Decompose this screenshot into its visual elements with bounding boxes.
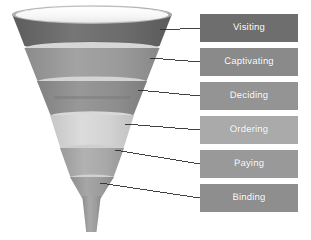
leader-line-captivating	[150, 58, 200, 62]
funnel-band-paying	[60, 148, 124, 179]
funnel-stem	[82, 196, 101, 232]
stage-label-binding[interactable]: Binding	[200, 184, 298, 212]
stage-label-text: Paying	[234, 159, 264, 169]
leader-line-deciding	[138, 90, 200, 96]
stage-label-visiting[interactable]: Visiting	[200, 14, 298, 42]
stage-label-captivating[interactable]: Captivating	[200, 48, 298, 76]
stage-label-text: Binding	[232, 193, 265, 203]
stage-label-text: Ordering	[230, 125, 269, 135]
funnel-diagram: Visiting Captivating Deciding Ordering P…	[0, 0, 311, 240]
funnel-bands	[12, 14, 172, 232]
funnel-rim	[12, 5, 172, 23]
stage-label-text: Captivating	[224, 57, 274, 67]
band-streak-deciding	[54, 96, 131, 99]
stage-label-text: Deciding	[230, 91, 269, 101]
leader-line-ordering	[125, 124, 200, 130]
leader-line-paying	[115, 150, 200, 164]
stage-label-text: Visiting	[233, 23, 265, 33]
stage-label-ordering[interactable]: Ordering	[200, 116, 298, 144]
leader-line-binding	[100, 183, 200, 198]
band-shape-paying	[60, 148, 124, 179]
stage-label-paying[interactable]: Paying	[200, 150, 298, 178]
stage-label-deciding[interactable]: Deciding	[200, 82, 298, 110]
